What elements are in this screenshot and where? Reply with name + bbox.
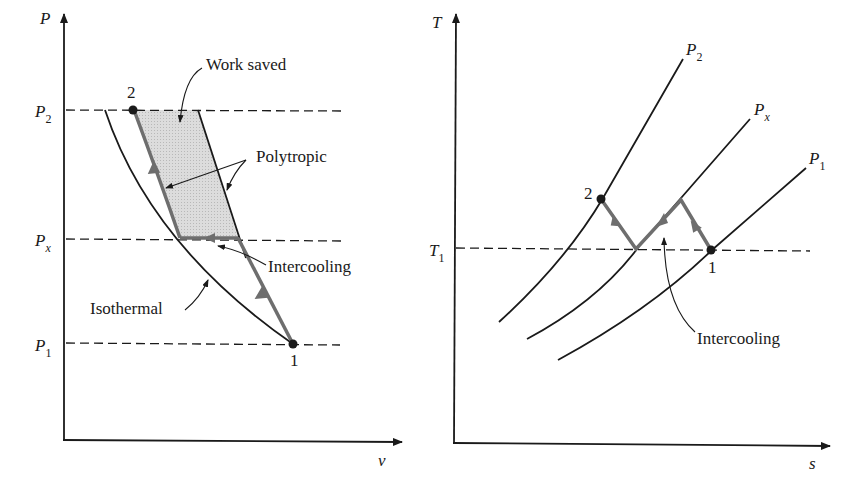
v-axis bbox=[63, 440, 402, 442]
px-label: Px bbox=[34, 231, 51, 255]
isothermal-label: Isothermal bbox=[90, 299, 163, 318]
state-point-2 bbox=[129, 106, 138, 115]
intercooling-label: Intercooling bbox=[268, 257, 352, 276]
v-axis-label: v bbox=[378, 451, 386, 470]
isobar-px bbox=[527, 119, 750, 339]
polytropic-leader-2 bbox=[227, 160, 246, 190]
ts-diagram: T s T1 P2 Px P1 2 1 Intercooling bbox=[429, 13, 830, 473]
isothermal-leader bbox=[185, 280, 208, 310]
ts-state-1-label: 1 bbox=[708, 258, 717, 277]
ts-intercooling-label: Intercooling bbox=[697, 329, 781, 348]
state-1-label: 1 bbox=[290, 351, 299, 370]
figure-canvas: P v P2 Px P1 2 1 Work saved Polytropic I… bbox=[0, 0, 852, 486]
p-axis-label: P bbox=[39, 9, 50, 28]
isobar-p1-label: P1 bbox=[808, 149, 825, 173]
work-saved-area bbox=[134, 110, 238, 238]
p1-dashed-line bbox=[66, 343, 340, 345]
work-saved-label: Work saved bbox=[206, 55, 287, 74]
t-axis bbox=[454, 14, 456, 443]
t1-label: T1 bbox=[429, 241, 444, 265]
ts-state-2-label: 2 bbox=[584, 184, 593, 203]
ts-state-point-1 bbox=[707, 246, 716, 255]
polytropic-label: Polytropic bbox=[256, 147, 327, 166]
p2-dashed-line bbox=[66, 110, 344, 111]
process-path-stage1 bbox=[238, 238, 293, 344]
p2-label: P2 bbox=[34, 102, 51, 126]
isobar-p2-label: P2 bbox=[685, 40, 702, 64]
isobar-px-label: Px bbox=[753, 100, 770, 124]
ts-state-point-2 bbox=[597, 195, 606, 204]
state-2-label: 2 bbox=[127, 83, 136, 102]
p1-label: P1 bbox=[34, 336, 51, 360]
state-point-1 bbox=[289, 340, 298, 349]
pv-diagram: P v P2 Px P1 2 1 Work saved Polytropic I… bbox=[34, 9, 402, 470]
s-axis-label: s bbox=[809, 454, 816, 473]
s-axis bbox=[453, 443, 830, 446]
t1-dashed-line bbox=[456, 248, 810, 251]
ts-intercooling-leader bbox=[664, 238, 695, 332]
t-axis-label: T bbox=[432, 13, 443, 32]
